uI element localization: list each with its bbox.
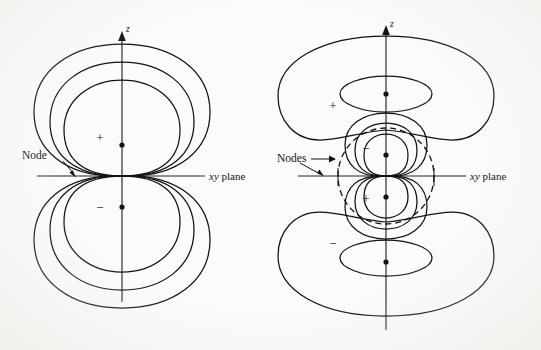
nucleus-dot xyxy=(383,152,388,157)
nodes-label-right: Nodes xyxy=(277,152,307,164)
panel-2p-orbital: + − z Node xy plane xyxy=(22,24,245,308)
nucleus-dot xyxy=(119,142,124,147)
nucleus-dot xyxy=(383,259,388,264)
z-axis-label-left: z xyxy=(125,24,130,34)
xy-plane-label-rest-left: plane xyxy=(219,170,246,182)
upper-lobe-sign-left: + xyxy=(96,130,103,145)
panel-3p-orbital: + − − + z Nodes xyxy=(277,19,506,330)
z-axis-label-right: z xyxy=(389,19,394,29)
node-label-left: Node xyxy=(22,149,47,161)
xy-plane-label-left: xy plane xyxy=(208,170,245,182)
xy-plane-label-italic-left: xy xyxy=(208,170,219,182)
inner-lower-sign-right: + xyxy=(362,191,369,206)
z-axis-right xyxy=(382,25,390,330)
nucleus-dot xyxy=(383,91,388,96)
lower-lobe-sign-left: − xyxy=(96,200,103,215)
nodes-leader-arrow-sphere-right xyxy=(311,156,336,163)
orbital-contour-figure: + − z Node xy plane + xyxy=(0,0,541,350)
xy-plane-label-right: xy plane xyxy=(469,170,506,182)
outer-lower-sign-right: − xyxy=(329,236,336,251)
figure-canvas: + − z Node xy plane + xyxy=(0,0,541,350)
inner-upper-sign-right: − xyxy=(362,141,369,156)
xy-plane-label-italic-right: xy xyxy=(469,170,480,182)
nodes-leader-arrow-plane-right xyxy=(300,163,324,177)
nucleus-dot xyxy=(383,194,388,199)
z-axis-left xyxy=(118,31,126,302)
nucleus-dot xyxy=(119,204,124,209)
xy-plane-label-rest-right: plane xyxy=(480,170,507,182)
outer-upper-sign-right: + xyxy=(329,98,336,113)
